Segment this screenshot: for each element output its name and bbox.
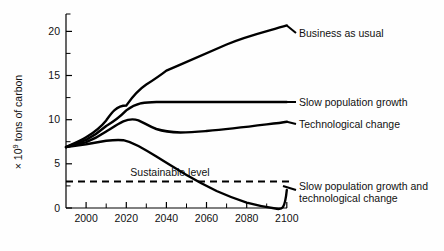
y-tick-label-10: 10 — [48, 113, 60, 125]
y-tick-label-0: 0 — [54, 202, 60, 214]
sustainable-level-label: Sustainable level — [130, 166, 209, 178]
y-tick-label-5: 5 — [54, 157, 60, 169]
x-tick-label-2000: 2000 — [74, 212, 98, 224]
x-axis: 2000 2020 2040 2060 2080 2100 — [66, 202, 299, 224]
chart-canvas: 0 5 10 15 20 × 109 tons of carbon — [0, 0, 444, 251]
svg-text:× 109 tons of carbon: × 109 tons of carbon — [11, 75, 24, 170]
series-label-slow-population-growth: Slow population growth — [299, 96, 408, 108]
sustainable-level-annotation: Sustainable level — [66, 166, 292, 182]
x-tick-label-2020: 2020 — [115, 212, 139, 224]
y-axis-title: × 109 tons of carbon — [11, 75, 24, 170]
y-axis: 0 5 10 15 20 × 109 tons of carbon — [11, 14, 72, 214]
x-tick-label-2080: 2080 — [235, 212, 259, 224]
y-axis-title-prefix: × 10 — [12, 148, 24, 169]
series-label-business-as-usual: Business as usual — [299, 27, 384, 39]
series-line-slow-population-growth — [66, 102, 287, 147]
leader-line-business-as-usual — [287, 25, 296, 33]
y-axis-title-suffix: tons of carbon — [12, 75, 24, 145]
series-line-business-as-usual — [66, 25, 287, 147]
x-tick-label-2060: 2060 — [195, 212, 219, 224]
leader-line-technological-change — [287, 122, 296, 124]
carbon-emissions-chart: 0 5 10 15 20 × 109 tons of carbon — [0, 0, 444, 251]
series-labels-group: Business as usual Slow population growth… — [283, 25, 428, 204]
x-tick-label-2100: 2100 — [275, 212, 299, 224]
x-tick-label-2040: 2040 — [155, 212, 179, 224]
series-label-slow-pop-and-tech-line2: technological change — [299, 192, 398, 204]
series-label-technological-change: Technological change — [299, 118, 400, 130]
y-tick-label-20: 20 — [48, 25, 60, 37]
leader-line-slow-pop-and-tech — [283, 186, 296, 190]
y-tick-label-15: 15 — [48, 69, 60, 81]
series-label-slow-pop-and-tech-line1: Slow population growth and — [299, 180, 428, 192]
